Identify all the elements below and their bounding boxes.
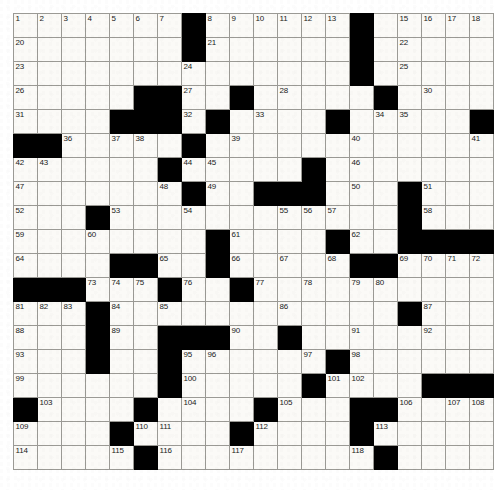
crossword-cell[interactable] <box>158 38 182 62</box>
crossword-cell[interactable] <box>134 182 158 206</box>
crossword-cell[interactable] <box>374 350 398 374</box>
crossword-cell[interactable] <box>134 326 158 350</box>
crossword-cell[interactable] <box>134 230 158 254</box>
crossword-cell[interactable] <box>206 302 230 326</box>
crossword-cell[interactable] <box>230 182 254 206</box>
crossword-cell[interactable] <box>326 446 350 470</box>
crossword-cell[interactable]: 107 <box>446 398 470 422</box>
crossword-cell[interactable] <box>374 62 398 86</box>
crossword-cell[interactable] <box>278 158 302 182</box>
crossword-cell[interactable] <box>86 62 110 86</box>
crossword-cell[interactable] <box>302 254 326 278</box>
crossword-cell[interactable] <box>134 158 158 182</box>
crossword-cell[interactable] <box>182 446 206 470</box>
crossword-cell[interactable] <box>254 374 278 398</box>
crossword-cell[interactable]: 42 <box>14 158 38 182</box>
crossword-cell[interactable]: 92 <box>422 326 446 350</box>
crossword-cell[interactable] <box>206 278 230 302</box>
crossword-cell[interactable] <box>206 62 230 86</box>
crossword-cell[interactable]: 32 <box>182 110 206 134</box>
crossword-cell[interactable]: 46 <box>350 158 374 182</box>
crossword-cell[interactable]: 44 <box>182 158 206 182</box>
crossword-cell[interactable]: 17 <box>446 14 470 38</box>
crossword-cell[interactable] <box>374 230 398 254</box>
crossword-cell[interactable] <box>302 446 326 470</box>
crossword-cell[interactable] <box>254 38 278 62</box>
crossword-cell[interactable] <box>38 86 62 110</box>
crossword-cell[interactable] <box>254 134 278 158</box>
crossword-cell[interactable] <box>62 422 86 446</box>
crossword-cell[interactable]: 117 <box>230 446 254 470</box>
crossword-cell[interactable]: 45 <box>206 158 230 182</box>
crossword-cell[interactable] <box>86 374 110 398</box>
crossword-cell[interactable] <box>326 158 350 182</box>
crossword-cell[interactable]: 18 <box>470 14 494 38</box>
crossword-cell[interactable] <box>302 326 326 350</box>
crossword-cell[interactable] <box>206 446 230 470</box>
crossword-cell[interactable]: 101 <box>326 374 350 398</box>
crossword-cell[interactable]: 90 <box>230 326 254 350</box>
crossword-cell[interactable]: 81 <box>14 302 38 326</box>
crossword-cell[interactable] <box>254 254 278 278</box>
crossword-grid[interactable]: 1234567891011121315161718202122232425262… <box>13 13 494 470</box>
crossword-cell[interactable]: 87 <box>422 302 446 326</box>
crossword-cell[interactable] <box>470 86 494 110</box>
crossword-cell[interactable] <box>110 398 134 422</box>
crossword-cell[interactable] <box>182 422 206 446</box>
crossword-cell[interactable] <box>446 182 470 206</box>
crossword-cell[interactable]: 31 <box>14 110 38 134</box>
crossword-cell[interactable] <box>374 38 398 62</box>
crossword-cell[interactable]: 68 <box>326 254 350 278</box>
crossword-cell[interactable]: 105 <box>278 398 302 422</box>
crossword-cell[interactable]: 93 <box>14 350 38 374</box>
crossword-cell[interactable]: 22 <box>398 38 422 62</box>
crossword-cell[interactable] <box>422 62 446 86</box>
crossword-cell[interactable] <box>374 302 398 326</box>
crossword-cell[interactable] <box>326 326 350 350</box>
crossword-cell[interactable] <box>110 86 134 110</box>
crossword-cell[interactable]: 83 <box>62 302 86 326</box>
crossword-cell[interactable] <box>38 62 62 86</box>
crossword-cell[interactable] <box>86 86 110 110</box>
crossword-cell[interactable] <box>110 230 134 254</box>
crossword-cell[interactable] <box>422 158 446 182</box>
crossword-cell[interactable] <box>422 446 446 470</box>
crossword-cell[interactable] <box>230 350 254 374</box>
crossword-cell[interactable]: 49 <box>206 182 230 206</box>
crossword-cell[interactable] <box>278 350 302 374</box>
crossword-cell[interactable]: 51 <box>422 182 446 206</box>
crossword-cell[interactable] <box>374 182 398 206</box>
crossword-cell[interactable] <box>86 254 110 278</box>
crossword-cell[interactable]: 50 <box>350 182 374 206</box>
crossword-cell[interactable] <box>182 230 206 254</box>
crossword-cell[interactable]: 1 <box>14 14 38 38</box>
crossword-cell[interactable] <box>302 38 326 62</box>
crossword-cell[interactable]: 41 <box>470 134 494 158</box>
crossword-cell[interactable] <box>278 230 302 254</box>
crossword-cell[interactable]: 116 <box>158 446 182 470</box>
crossword-cell[interactable] <box>62 206 86 230</box>
crossword-cell[interactable] <box>374 206 398 230</box>
crossword-cell[interactable] <box>302 398 326 422</box>
crossword-cell[interactable] <box>254 86 278 110</box>
crossword-cell[interactable] <box>38 374 62 398</box>
crossword-cell[interactable] <box>398 278 422 302</box>
crossword-cell[interactable] <box>398 158 422 182</box>
crossword-cell[interactable]: 40 <box>350 134 374 158</box>
crossword-cell[interactable]: 57 <box>326 206 350 230</box>
crossword-cell[interactable] <box>302 86 326 110</box>
crossword-cell[interactable] <box>374 158 398 182</box>
crossword-cell[interactable]: 15 <box>398 14 422 38</box>
crossword-cell[interactable] <box>254 350 278 374</box>
crossword-cell[interactable] <box>446 446 470 470</box>
crossword-cell[interactable] <box>446 326 470 350</box>
crossword-cell[interactable]: 64 <box>14 254 38 278</box>
crossword-cell[interactable] <box>470 350 494 374</box>
crossword-cell[interactable]: 16 <box>422 14 446 38</box>
crossword-cell[interactable] <box>278 374 302 398</box>
crossword-cell[interactable]: 103 <box>38 398 62 422</box>
crossword-cell[interactable]: 99 <box>14 374 38 398</box>
crossword-cell[interactable] <box>158 134 182 158</box>
crossword-cell[interactable] <box>86 422 110 446</box>
crossword-cell[interactable] <box>254 230 278 254</box>
